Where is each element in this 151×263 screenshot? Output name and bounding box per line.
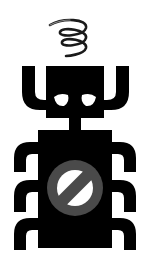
robot-neck (69, 116, 81, 132)
robot-bug-icon (0, 0, 151, 263)
robot-bug-illustration: Black pictogram of a sad bug-like robot … (0, 0, 151, 263)
left-arm (22, 66, 48, 110)
robot-head (46, 66, 104, 118)
right-legs (110, 142, 136, 250)
prohibition-icon (47, 160, 103, 216)
spring-coil-icon (50, 20, 86, 56)
left-legs (14, 142, 40, 250)
right-arm (103, 66, 129, 110)
